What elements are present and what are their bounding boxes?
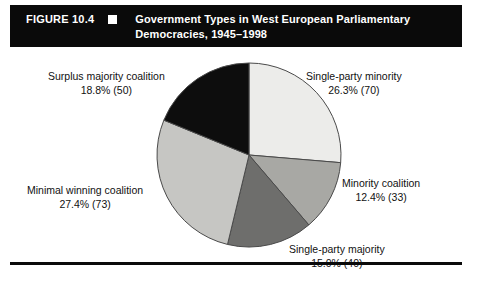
pie-label-value: 18.8% (50) — [48, 84, 165, 98]
pie-label-minority-coalition: Minority coalition 12.4% (33) — [342, 177, 420, 204]
square-bullet-icon — [108, 15, 117, 24]
figure-number-label: FIGURE 10.4 — [26, 12, 94, 26]
pie-label-value: 27.4% (73) — [27, 198, 143, 212]
pie-label-value: 12.4% (33) — [342, 191, 420, 205]
pie-label-name: Surplus majority coalition — [48, 70, 165, 84]
pie-label-single-party-minority: Single-party minority 26.3% (70) — [306, 70, 402, 97]
pie-label-surplus-majority-coalition: Surplus majority coalition 18.8% (50) — [48, 70, 165, 97]
figure-header-bar: FIGURE 10.4 Government Types in West Eur… — [10, 5, 462, 47]
pie-slice — [249, 155, 341, 225]
pie-label-single-party-majority: Single-party majority 15.0% (40) — [289, 243, 385, 270]
pie-slice — [164, 63, 249, 155]
figure-title: Government Types in West European Parlia… — [135, 12, 462, 42]
pie-label-name: Minimal winning coalition — [27, 184, 143, 198]
pie-slice — [157, 120, 249, 244]
figure-bottom-rule — [10, 262, 462, 265]
pie-label-minimal-winning-coalition: Minimal winning coalition 27.4% (73) — [27, 184, 143, 211]
figure-container: FIGURE 10.4 Government Types in West Eur… — [0, 0, 477, 284]
pie-slice — [228, 155, 309, 247]
pie-label-name: Single-party minority — [306, 70, 402, 84]
pie-label-name: Minority coalition — [342, 177, 420, 191]
pie-label-name: Single-party majority — [289, 243, 385, 257]
pie-label-value: 26.3% (70) — [306, 84, 402, 98]
